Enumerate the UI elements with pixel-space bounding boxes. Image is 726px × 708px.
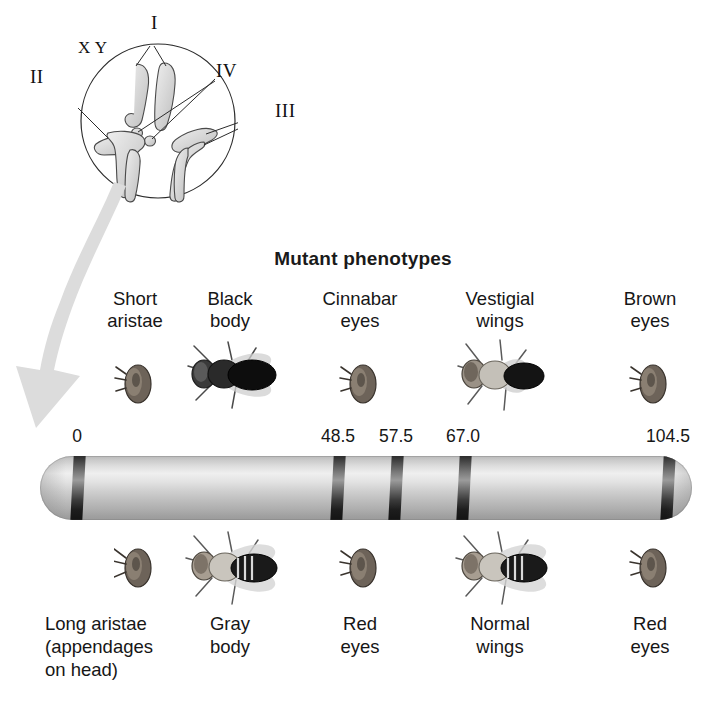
mutant-label-line2: eyes [285,310,435,332]
mutant-label-col-4: Vestigial wings [425,288,575,332]
fly-head-red-eyes-icon [339,540,381,596]
fly-head-red-eyes-2-icon [629,540,671,596]
wildtype-fly-slot-3 [285,540,435,596]
mutant-label-line1: Cinnabar [285,288,435,310]
mutant-label-line1: Brown [575,288,725,310]
mutant-fly-slot-2 [155,336,305,414]
mutant-label-col-2: Black body [155,288,305,332]
mutant-label-line2: wings [425,310,575,332]
gene-band-67-0 [456,456,471,520]
mutant-label-line2: body [155,310,305,332]
chromosome-map-bar [40,452,692,524]
fly-head-short-aristae-icon [114,356,156,412]
mutant-label-line2: eyes [575,310,725,332]
chromosome-cylinder [40,456,692,520]
karyotype-label-IV: IV [216,60,237,82]
mutant-fly-slot-5 [575,356,725,412]
gene-band-0 [70,456,85,520]
wildtype-fly-slot-4 [425,528,575,608]
figure-canvas: I II III IV X Y Mutant phenotypes Short … [0,0,726,708]
karyotype-label-III: III [275,100,295,122]
mutant-label-col-3: Cinnabar eyes [285,288,435,332]
mutant-label-line1: Black [155,288,305,310]
fly-normal-wings-icon [452,528,548,608]
fly-head-long-aristae-icon [114,540,156,596]
fly-head-brown-eyes-icon [629,356,671,412]
fly-gray-body-icon [182,528,278,608]
fly-vestigial-wings-icon [452,336,548,414]
map-position-0: 0 [22,426,132,447]
karyotype-label-II: II [30,66,44,88]
gene-band-57-5 [388,456,403,520]
fly-black-body-icon [182,336,278,414]
wildtype-label-line1: Red [560,612,726,635]
karyotype-label-I: I [151,12,158,34]
gene-band-48-5 [330,456,345,520]
map-position-67-0: 67.0 [408,426,518,447]
wildtype-label-col-5: Red eyes [560,612,726,658]
mutant-label-col-5: Brown eyes [575,288,725,332]
figure-title: Mutant phenotypes [0,248,726,270]
mutant-label-line1: Vestigial [425,288,575,310]
gene-band-104-5 [660,456,675,520]
wildtype-label-line3: on head) [45,658,225,681]
mutant-fly-slot-3 [285,356,435,412]
fly-head-cinnabar-eyes-icon [339,356,381,412]
mutant-fly-slot-4 [425,336,575,414]
map-position-104-5: 104.5 [613,426,723,447]
wildtype-fly-slot-2 [155,528,305,608]
wildtype-label-line2: eyes [560,635,726,658]
wildtype-fly-slot-5 [575,540,725,596]
